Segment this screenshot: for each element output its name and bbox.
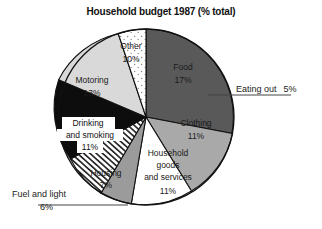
pie-chart-figure: Household budget 1987 (% total) xyxy=(0,0,322,229)
callout-eating-out-label: Eating out xyxy=(236,84,277,94)
label-other-name: Other xyxy=(120,41,141,51)
label-drinking-pct: 11% xyxy=(82,142,99,152)
label-drinking-line2: and smoking xyxy=(66,130,114,140)
label-housing-name: Housing xyxy=(90,168,121,178)
callout-eating-out: Eating out5% xyxy=(236,84,297,94)
label-household-line3: and services xyxy=(144,172,192,182)
callout-eating-out-pct: 5% xyxy=(284,84,297,94)
label-drinking-line1: Drinking xyxy=(72,118,103,128)
callout-fuel-and-light-pct: 6% xyxy=(40,202,53,212)
label-other-pct: 10% xyxy=(122,54,139,64)
label-food-name: Food xyxy=(173,62,193,72)
label-household-pct: 11% xyxy=(160,186,177,196)
label-clothing-name: Clothing xyxy=(180,118,211,128)
label-household-line2: goods xyxy=(156,160,179,170)
label-motoring-pct: 13% xyxy=(83,88,100,98)
label-motoring-name: Motoring xyxy=(75,75,108,85)
callout-fuel-and-light-label: Fuel and light xyxy=(12,189,66,199)
label-food-pct: 17% xyxy=(174,75,191,85)
label-housing-pct: 7% xyxy=(100,180,113,190)
label-household-line1: Household xyxy=(148,148,189,158)
label-clothing-pct: 11% xyxy=(188,131,205,141)
